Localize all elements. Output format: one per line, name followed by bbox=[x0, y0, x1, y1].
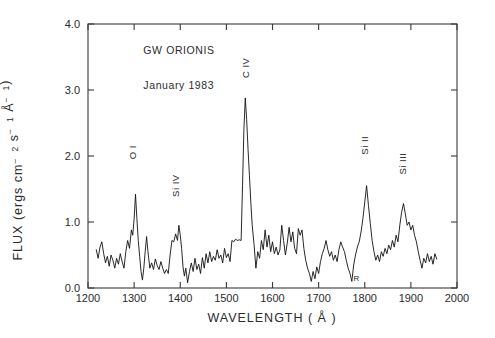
y-tick-label: 3.0 bbox=[65, 84, 80, 96]
chart-annotations: GW ORIONISJanuary 1983O ISi IVC IVSi IIS… bbox=[127, 44, 409, 284]
spectrum-figure: 120013001400150016001700180019002000 0.0… bbox=[0, 0, 495, 338]
annotation-label: GW ORIONIS bbox=[143, 44, 214, 56]
y-tick-label: 1.0 bbox=[65, 216, 80, 228]
x-tick-label: 1500 bbox=[214, 292, 238, 304]
annotation-label: Si II bbox=[359, 136, 370, 155]
annotation-label: January 1983 bbox=[143, 79, 214, 91]
x-tick-label: 2000 bbox=[445, 292, 469, 304]
x-axis-title: WAVELENGTH ( Å ) bbox=[207, 310, 336, 325]
x-tick-label: 1400 bbox=[168, 292, 192, 304]
annotation-label: Si III bbox=[397, 152, 408, 174]
y-tick-label: 4.0 bbox=[65, 18, 80, 30]
y-axis-tick-labels: 0.01.02.03.04.0 bbox=[65, 18, 80, 294]
annotation-label: O I bbox=[127, 145, 138, 159]
x-tick-label: 1700 bbox=[306, 292, 330, 304]
x-tick-label: 1300 bbox=[122, 292, 146, 304]
spectrum-trace bbox=[96, 98, 436, 283]
x-tick-label: 1900 bbox=[399, 292, 423, 304]
y-tick-label: 2.0 bbox=[65, 150, 80, 162]
annotation-label: Si IV bbox=[170, 174, 181, 197]
annotation-label: R bbox=[354, 274, 360, 283]
y-axis-title: FLUX (ergs cm− 2 s− 1 Å− 1) bbox=[0, 79, 25, 260]
y-tick-label: 0.0 bbox=[65, 282, 80, 294]
x-axis-tick-labels: 120013001400150016001700180019002000 bbox=[76, 292, 469, 304]
x-tick-label: 1800 bbox=[353, 292, 377, 304]
x-tick-label: 1600 bbox=[260, 292, 284, 304]
annotation-label: C IV bbox=[240, 57, 251, 78]
